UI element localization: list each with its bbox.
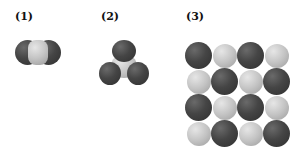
light-atom — [265, 44, 289, 68]
panel-label-1: (1) — [15, 10, 33, 23]
light-atom — [239, 70, 263, 94]
dark-atom-bottom-right — [127, 62, 149, 85]
light-atom-center — [28, 40, 48, 65]
light-atom — [187, 122, 211, 146]
dark-atom — [263, 68, 290, 95]
dark-atom-bottom-left — [99, 62, 121, 85]
dark-atom — [237, 94, 264, 121]
dark-atom — [211, 120, 238, 147]
light-atom — [265, 96, 289, 120]
light-atom — [187, 70, 211, 94]
dark-atom — [263, 120, 290, 147]
dark-atom-top — [112, 40, 136, 62]
atom-lattice — [185, 42, 292, 146]
dark-atom — [211, 68, 238, 95]
linear-molecule — [15, 40, 61, 65]
dark-atom — [185, 94, 212, 121]
dark-atom — [185, 42, 212, 69]
light-atom — [239, 122, 263, 146]
dark-atom — [237, 42, 264, 69]
panel-label-2: (2) — [101, 10, 119, 23]
light-atom — [213, 96, 237, 120]
light-atom — [213, 44, 237, 68]
trigonal-molecule — [99, 40, 149, 86]
panel-label-3: (3) — [186, 10, 204, 23]
